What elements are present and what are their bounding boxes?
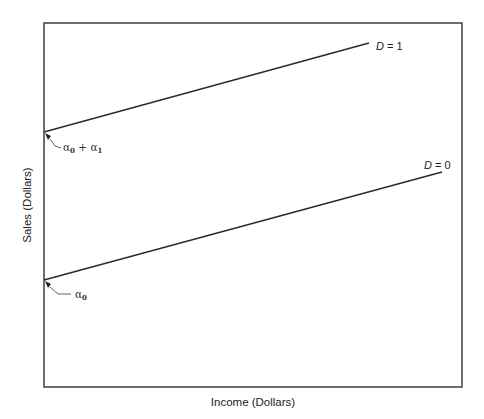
label-alpha0-plus-alpha1: α0 + α1 bbox=[63, 141, 103, 155]
label-d-var: D bbox=[424, 159, 432, 171]
label-d-eq: = 1 bbox=[384, 40, 403, 52]
line-d-equals-0 bbox=[44, 172, 442, 280]
label-d-equals-1: D = 1 bbox=[376, 40, 403, 52]
y-axis-label: Sales (Dollars) bbox=[21, 167, 33, 243]
label-d-eq: = 0 bbox=[432, 159, 451, 171]
line-d-equals-1 bbox=[44, 43, 369, 132]
dummy-variable-chart: D = 1 D = 0 α0 + α1 α0 Income (Dollars) … bbox=[0, 0, 484, 419]
plot-frame bbox=[44, 23, 462, 387]
x-axis-label: Income (Dollars) bbox=[211, 396, 296, 408]
leader-lower-intercept bbox=[45, 281, 71, 294]
label-d-equals-0: D = 0 bbox=[424, 159, 451, 171]
label-d-var: D bbox=[376, 40, 384, 52]
leader-upper-intercept bbox=[45, 133, 61, 148]
label-alpha0: α0 bbox=[75, 288, 87, 302]
